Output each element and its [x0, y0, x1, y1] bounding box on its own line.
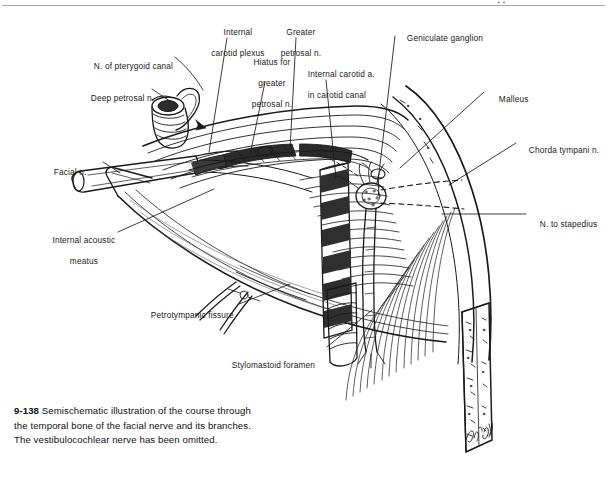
- leader-chorda-tympani: [449, 143, 516, 185]
- label-n-to-stapedius: N. to stapedius: [530, 208, 597, 240]
- label-hiatus-for-greater-petrosal-n: Hiatus for greater petrosal n.: [230, 46, 304, 120]
- label-chorda-tympani-n: Chorda tympani n.: [519, 134, 599, 166]
- leader-deep-petrosal-n: [152, 89, 170, 101]
- label-deep-petrosal-n: Deep petrosal n.: [81, 82, 154, 114]
- label-geniculate-ganglion: Geniculate ganglion: [397, 22, 483, 54]
- bone-block: [462, 303, 492, 452]
- internal-carotid-artery: [320, 163, 352, 338]
- label-stylomastoid-foramen: Stylomastoid foramen: [222, 349, 315, 381]
- label-n-of-pterygoid-canal: N. of pterygoid canal: [84, 50, 173, 82]
- leader-internal-acoustic-meatus: [118, 189, 214, 232]
- figure-number: 9-138: [14, 405, 39, 416]
- figure-caption: 9-138 Semischematic illustration of the …: [14, 404, 344, 448]
- leader-geniculate-ganglion: [378, 36, 395, 182]
- label-internal-carotid-a-in-carotid-canal: Internal carotid a. in carotid canal: [298, 58, 375, 111]
- temporal-bone-shell: [346, 86, 491, 400]
- label-facial-n: Facial n.: [44, 156, 87, 188]
- caption-line-2: the temporal bone of the facial nerve an…: [14, 419, 344, 434]
- header-rule: [2, 3, 605, 6]
- caption-line-3: The vestibulocochlear nerve has been omi…: [14, 433, 344, 448]
- label-petrotympanic-fissure: Petrotympanic fissure: [141, 299, 234, 331]
- label-internal-acoustic-meatus: Internal acoustic meatus: [33, 224, 125, 277]
- figure-page: Internal carotid plexus Greater petrosal…: [0, 0, 607, 479]
- label-malleus: Malleus: [489, 83, 528, 115]
- caption-line-1: Semischematic illustration of the course…: [42, 405, 251, 416]
- leader-malleus: [400, 92, 484, 168]
- petrous-bone-surface: [143, 106, 413, 288]
